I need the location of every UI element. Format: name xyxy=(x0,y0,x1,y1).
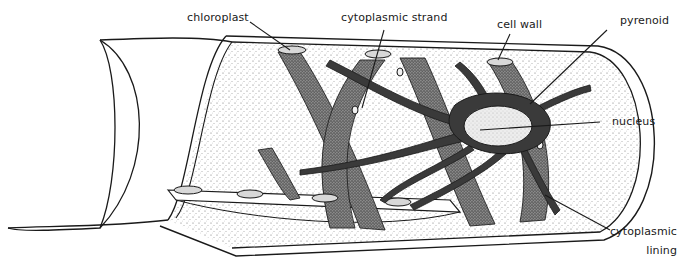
label-nucleus: nucleus xyxy=(612,115,655,128)
label-cell-wall: cell wall xyxy=(497,18,542,31)
label-cytoplasmic-strand: cytoplasmic strand xyxy=(341,11,448,24)
cell-diagram: chloroplast cytoplasmic strand cell wall… xyxy=(0,0,681,266)
label-pyrenoid: pyrenoid xyxy=(620,14,669,27)
cell-illustration xyxy=(0,0,681,266)
label-chloroplast: chloroplast xyxy=(187,11,249,24)
label-cytoplasmic-lining-line2: lining xyxy=(607,244,677,257)
label-cytoplasmic-lining-line1: cytoplasmic xyxy=(607,225,677,238)
